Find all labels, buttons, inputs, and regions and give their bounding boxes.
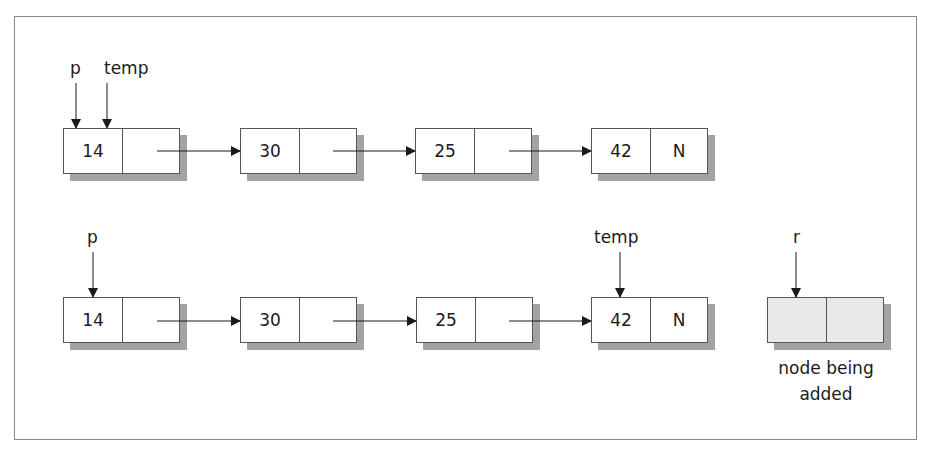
node-next-cell <box>827 298 883 342</box>
pointer-label-p-row2: p <box>87 227 98 247</box>
new-node <box>767 297 884 343</box>
node-data-cell: 30 <box>241 298 300 342</box>
new-node-caption-line1: node being <box>756 356 896 380</box>
pointer-label-temp-row1: temp <box>104 58 148 78</box>
list-node-row1-1: 30 <box>240 128 357 174</box>
node-next-cell <box>300 129 356 173</box>
node-next-cell <box>123 129 179 173</box>
list-node-row1-2: 25 <box>415 128 532 174</box>
node-next-cell-null: N <box>651 129 707 173</box>
pointer-label-r: r <box>793 227 800 247</box>
node-data-cell: 14 <box>64 298 123 342</box>
node-data-cell: 25 <box>416 129 475 173</box>
list-node-row1-0: 14 <box>63 128 180 174</box>
node-data-cell: 14 <box>64 129 123 173</box>
list-node-row2-3: 42 N <box>591 297 708 343</box>
pointer-label-p-row1: p <box>70 58 81 78</box>
node-data-cell: 30 <box>241 129 300 173</box>
node-next-cell <box>476 298 532 342</box>
list-node-row2-1: 30 <box>240 297 357 343</box>
node-next-cell-null: N <box>651 298 707 342</box>
new-node-caption-line2: added <box>756 382 896 406</box>
list-node-row2-2: 25 <box>416 297 533 343</box>
node-data-cell: 42 <box>592 298 651 342</box>
pointer-label-temp-row2: temp <box>594 227 638 247</box>
list-node-row1-3: 42 N <box>591 128 708 174</box>
node-next-cell <box>123 298 179 342</box>
node-data-cell <box>768 298 827 342</box>
node-next-cell <box>300 298 356 342</box>
node-data-cell: 25 <box>417 298 476 342</box>
node-next-cell <box>475 129 531 173</box>
node-data-cell: 42 <box>592 129 651 173</box>
list-node-row2-0: 14 <box>63 297 180 343</box>
